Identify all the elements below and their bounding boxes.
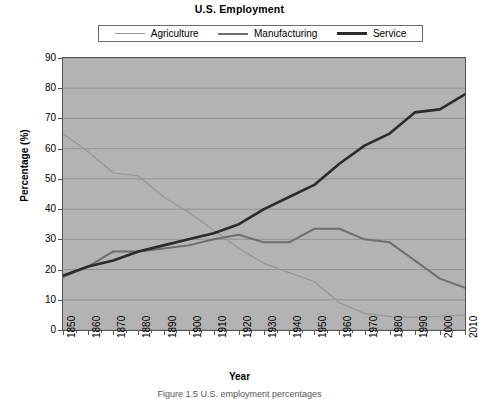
x-minor-tick-mark [126,330,127,333]
x-minor-tick-mark [377,330,378,333]
x-tick-label: 1880 [142,316,152,338]
x-tick-mark [264,330,265,335]
x-tick-mark [113,330,114,335]
y-tick-label: 30 [22,234,56,244]
y-tick-label: 70 [22,113,56,123]
x-tick-label: 1980 [394,316,404,338]
figure-caption: Figure 1.5 U.S. employment percentages [0,389,479,399]
legend-label-service: Service [373,29,406,39]
x-tick-label: 1920 [243,316,253,338]
x-minor-tick-mark [76,330,77,333]
x-tick-mark [164,330,165,335]
x-axis-title: Year [0,371,479,382]
x-minor-tick-mark [251,330,252,333]
x-tick-mark [365,330,366,335]
plot-area [62,57,466,331]
x-tick-label: 1990 [419,316,429,338]
y-tick-mark [58,88,62,89]
x-tick-mark [339,330,340,335]
y-tick-mark [58,149,62,150]
y-tick-mark [58,270,62,271]
x-minor-tick-mark [427,330,428,333]
x-tick-label: 1960 [343,316,353,338]
x-tick-label: 1860 [92,316,102,338]
x-minor-tick-mark [151,330,152,333]
plot-svg [63,58,465,330]
x-tick-mark [63,330,64,335]
x-tick-mark [239,330,240,335]
legend-item-agriculture: Agriculture [115,29,199,39]
x-minor-tick-mark [176,330,177,333]
x-tick-mark [189,330,190,335]
x-tick-mark [214,330,215,335]
x-tick-mark [440,330,441,335]
x-minor-tick-mark [302,330,303,333]
x-minor-tick-mark [402,330,403,333]
x-tick-mark [465,330,466,335]
x-minor-tick-mark [277,330,278,333]
x-tick-label: 2000 [444,316,454,338]
y-tick-mark [58,179,62,180]
y-tick-label: 80 [22,83,56,93]
x-tick-label: 2010 [469,316,479,338]
x-minor-tick-mark [101,330,102,333]
x-tick-label: 1970 [369,316,379,338]
chart-legend: Agriculture Manufacturing Service [98,25,423,42]
series-line-agriculture [63,134,465,318]
y-tick-mark [58,239,62,240]
x-tick-label: 1890 [168,316,178,338]
y-tick-mark [58,118,62,119]
legend-swatch-manufacturing [218,33,248,35]
legend-label-manufacturing: Manufacturing [254,29,317,39]
y-tick-mark [58,58,62,59]
legend-label-agriculture: Agriculture [151,29,199,39]
legend-item-manufacturing: Manufacturing [218,29,317,39]
x-tick-label: 1930 [268,316,278,338]
y-tick-mark [58,330,62,331]
x-tick-label: 1870 [117,316,127,338]
x-tick-mark [390,330,391,335]
x-tick-label: 1940 [293,316,303,338]
x-minor-tick-mark [327,330,328,333]
y-tick-label: 10 [22,295,56,305]
x-tick-mark [88,330,89,335]
y-tick-label: 20 [22,265,56,275]
x-minor-tick-mark [452,330,453,333]
y-tick-label: 90 [22,53,56,63]
x-tick-label: 1950 [318,316,328,338]
legend-swatch-service [337,32,367,35]
legend-item-service: Service [337,29,406,39]
x-minor-tick-mark [352,330,353,333]
x-tick-label: 1900 [193,316,203,338]
x-tick-label: 1850 [67,316,77,338]
x-minor-tick-mark [201,330,202,333]
y-tick-label: 0 [22,325,56,335]
legend-swatch-agriculture [115,33,145,34]
y-tick-mark [58,300,62,301]
x-tick-mark [415,330,416,335]
y-tick-label: 50 [22,174,56,184]
y-tick-mark [58,209,62,210]
series-line-service [63,94,465,275]
x-minor-tick-mark [226,330,227,333]
y-tick-label: 60 [22,144,56,154]
y-tick-label: 40 [22,204,56,214]
x-tick-mark [289,330,290,335]
chart-title: U.S. Employment [0,3,479,15]
x-tick-mark [138,330,139,335]
x-tick-label: 1910 [218,316,228,338]
x-tick-mark [314,330,315,335]
